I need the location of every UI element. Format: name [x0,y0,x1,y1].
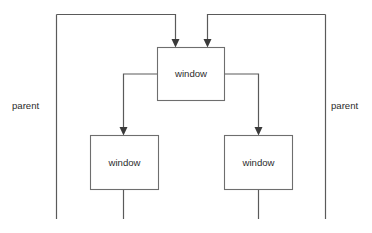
connector-top-to-left-window [124,74,158,129]
node-top-window: window [158,48,225,101]
node-right-window: window [225,136,293,190]
node-left-window: window [91,136,159,190]
parent-label-left: parent [12,100,40,111]
arrow-head-top-to-left-window [120,127,128,136]
connector-top-to-right-window [224,74,259,129]
parent-right-connector-to-top-window [208,15,326,42]
arrow-head-top-to-right-window [255,127,263,136]
arrow-head-parent-left-to-top-window [172,39,180,48]
arrow-head-parent-right-to-top-window [204,39,212,48]
right-window-label: window [242,157,275,168]
window-hierarchy-diagram: window window window parent parent [0,0,372,233]
left-window-label: window [108,157,141,168]
top-window-label: window [174,68,207,79]
diagram-canvas: window window window parent parent [0,0,372,233]
parent-left-connector-to-top-window [57,15,176,42]
parent-label-right: parent [331,100,359,111]
